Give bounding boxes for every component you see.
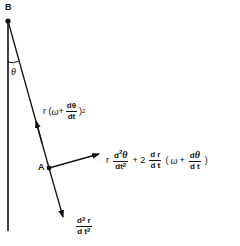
fraction-numerator: d2θ — [113, 150, 128, 162]
fraction-numerator: dθ — [66, 102, 77, 112]
open-paren: ( — [165, 156, 168, 165]
point-a-label: A — [38, 163, 45, 172]
tangential-expression: r d2θ dt2 + 2 d r d t ( ω + dθ d t ) — [104, 150, 210, 171]
dtheta-dt-fraction: dθ dt — [66, 102, 77, 121]
r-symbol: r — [85, 216, 90, 225]
dt-symbol: dt — [115, 162, 123, 171]
plus-two: + 2 — [132, 156, 145, 165]
fraction-denominator: d t — [150, 161, 160, 170]
theta-symbol: θ — [122, 149, 127, 160]
superscript: 2 — [119, 149, 122, 155]
superscript: 2 — [87, 227, 90, 233]
fraction-denominator: d t — [190, 162, 200, 171]
fraction-numerator: dθ — [189, 150, 201, 162]
d2theta-dt2-fraction: d2θ dt2 — [113, 150, 128, 171]
omega-symbol: ω — [52, 107, 59, 117]
close-paren: ) — [205, 156, 208, 165]
fraction-denominator: d t2 — [77, 227, 90, 236]
theta-symbol: θ — [195, 149, 200, 160]
expr-r-open: r ( — [43, 107, 52, 116]
tangential-arrow — [49, 154, 99, 168]
radial-inward-arrow — [36, 121, 42, 143]
power-exponent: 2 — [82, 108, 85, 114]
fraction-numerator: d2 r — [76, 217, 92, 227]
point-a-marker — [47, 166, 52, 171]
point-b-label: B — [5, 3, 12, 12]
dtheta-dt-fraction: dθ d t — [189, 150, 201, 171]
radial-acceleration-expression: d2 r d t2 — [74, 217, 94, 236]
fraction-numerator: d r — [149, 151, 161, 161]
plus-sign: + — [180, 156, 185, 165]
d2r-dt2-fraction: d2 r d t2 — [76, 217, 92, 236]
fraction-denominator: dt — [68, 112, 76, 121]
expr-r: r — [106, 156, 109, 165]
radial-outward-arrow — [49, 168, 63, 217]
point-b-marker — [5, 18, 10, 23]
superscript: 2 — [82, 216, 85, 222]
fraction-denominator: dt2 — [115, 162, 126, 171]
centripetal-expression: r ( ω + dθ dt )2 — [43, 102, 85, 121]
angle-theta-label: θ — [11, 66, 16, 77]
angle-arc — [8, 61, 19, 63]
pendulum-diagram — [0, 0, 240, 246]
plus-sign: + — [59, 107, 64, 116]
dt-symbol: d t — [77, 227, 87, 236]
omega-symbol: ω — [170, 156, 177, 166]
pendulum-rod — [8, 21, 49, 168]
dr-dt-fraction: d r d t — [149, 151, 161, 170]
superscript: 2 — [123, 162, 126, 168]
